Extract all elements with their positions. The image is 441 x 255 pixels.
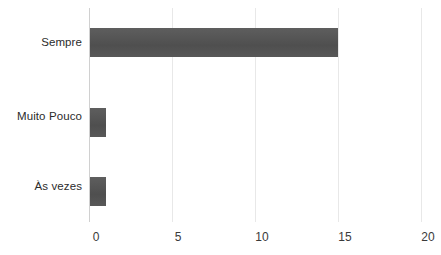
xtick-label-5: 5	[175, 230, 182, 244]
bar-muito-pouco	[89, 108, 106, 137]
value-axis-line	[89, 8, 90, 222]
bar-as-vezes	[89, 177, 106, 206]
category-label-sempre: Sempre	[0, 36, 82, 48]
gridline-20	[421, 8, 422, 222]
plot-area	[89, 8, 421, 222]
bar-sempre	[89, 28, 338, 57]
xtick-label-20: 20	[421, 230, 434, 244]
xtick-label-15: 15	[338, 230, 351, 244]
category-label-muito-pouco: Muito Pouco	[0, 110, 82, 122]
category-label-as-vezes: Às vezes	[0, 180, 82, 192]
gridline-15	[338, 8, 339, 222]
bar-chart: Sempre Muito Pouco Às vezes 0 5 10 15 20	[0, 0, 441, 255]
xtick-label-10: 10	[255, 230, 268, 244]
xtick-label-0: 0	[93, 230, 100, 244]
